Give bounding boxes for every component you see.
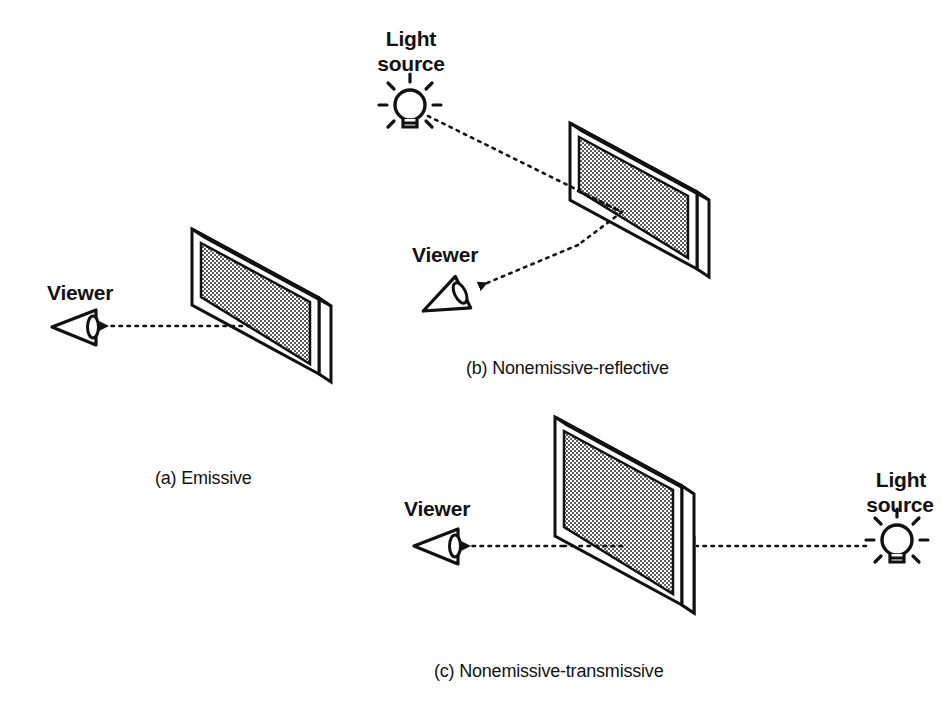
panel-c-light-bulb-icon xyxy=(866,509,928,562)
panel-c-viewer-eye-icon xyxy=(414,529,461,564)
panel-c-light-source-label-line2: source xyxy=(851,493,942,517)
panel-b-caption: (b) Nonemissive-reflective xyxy=(466,358,669,378)
figure-canvas: Viewer (a) Emissive Light source Viewer … xyxy=(0,0,942,707)
panel-a-display xyxy=(192,229,331,382)
panel-b-light-source-label-line1: Light xyxy=(372,27,450,51)
panel-a-caption: (a) Emissive xyxy=(155,468,252,488)
panel-c-caption: (c) Nonemissive-transmissive xyxy=(434,661,663,681)
panel-b-side-face xyxy=(697,192,709,277)
panel-c-viewer-label: Viewer xyxy=(404,497,470,521)
panel-b-bulb-glass xyxy=(395,90,425,120)
panel-b-display xyxy=(570,123,709,277)
panel-a-screen xyxy=(201,243,310,364)
panel-a-viewer-label: Viewer xyxy=(47,281,113,305)
panel-a-side-face xyxy=(319,298,331,382)
panel-b-viewer-label: Viewer xyxy=(412,243,478,267)
panel-c-bulb-glass xyxy=(882,525,912,555)
panel-b-viewer-eye-icon xyxy=(416,275,473,327)
panel-b-light-source-label-line2: source xyxy=(362,52,460,76)
diagram-svg xyxy=(0,0,942,707)
panel-c-slab xyxy=(682,486,694,613)
panel-b-light-bulb-icon xyxy=(379,74,441,127)
panel-a-viewer-eye-icon xyxy=(52,310,99,345)
panel-b-exit-ray-line xyxy=(487,245,578,283)
panel-c-display xyxy=(555,417,694,613)
panel-c-light-source-label-line1: Light xyxy=(862,468,940,492)
